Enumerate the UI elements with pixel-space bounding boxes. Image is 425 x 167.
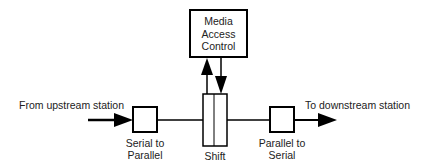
- mac-label-line-1: Media: [190, 15, 247, 28]
- serial-to-parallel-label: Serial to Parallel: [115, 137, 175, 161]
- output-label: To downstream station: [305, 99, 410, 111]
- mac-label-line-3: Control: [190, 40, 247, 53]
- serial-to-parallel-line-1: Serial to: [115, 137, 175, 149]
- input-arrow: [88, 113, 133, 127]
- parallel-to-serial-box: [270, 107, 294, 132]
- parallel-to-serial-label: Parallel to Serial: [250, 137, 314, 161]
- arrow-mac-to-shift: [215, 57, 227, 94]
- input-label: From upstream station: [19, 99, 124, 111]
- mac-label-line-2: Access: [190, 28, 247, 41]
- shift-label: Shift: [195, 150, 235, 162]
- parallel-to-serial-line-1: Parallel to: [250, 137, 314, 149]
- output-arrow: [294, 113, 337, 127]
- arrow-shift-to-mac: [201, 58, 213, 94]
- shift-register: [203, 94, 227, 146]
- mac-label: Media Access Control: [190, 15, 247, 53]
- serial-to-parallel-box: [133, 107, 157, 132]
- parallel-to-serial-line-2: Serial: [250, 149, 314, 161]
- serial-to-parallel-line-2: Parallel: [115, 149, 175, 161]
